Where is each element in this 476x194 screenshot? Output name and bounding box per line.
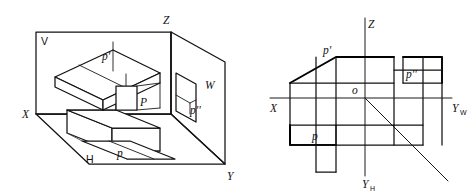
label-front-projection-pictorial: p': [101, 50, 111, 63]
label-axis-z-multiview: Z: [368, 18, 375, 30]
label-top-projection-pictorial: p: [116, 147, 123, 160]
label-plane-w: W: [205, 79, 216, 91]
label-solid-face-pictorial: P: [139, 96, 147, 108]
figure-background: [0, 0, 476, 194]
label-axis-x-pictorial: X: [21, 108, 30, 120]
label-origin-multiview: o: [352, 84, 358, 96]
figure-root: V H W X Y Z p' p'' p P: [0, 0, 476, 194]
label-plane-v: V: [41, 35, 48, 47]
label-side-view-multiview: p'': [405, 68, 417, 81]
label-axis-z-pictorial: Z: [163, 14, 170, 26]
label-axis-yw-subscript: W: [460, 109, 467, 116]
label-plane-h: H: [86, 153, 94, 165]
label-axis-x-multiview: X: [269, 102, 278, 114]
solid-riser-face: [116, 86, 137, 110]
projection-figure-svg: V H W X Y Z p' p'' p P: [0, 0, 476, 194]
label-top-view-multiview: p: [311, 130, 318, 143]
label-side-projection-pictorial: p'': [189, 104, 201, 117]
label-axis-yh-subscript: H: [370, 185, 375, 192]
label-front-view-multiview: p': [322, 44, 332, 57]
